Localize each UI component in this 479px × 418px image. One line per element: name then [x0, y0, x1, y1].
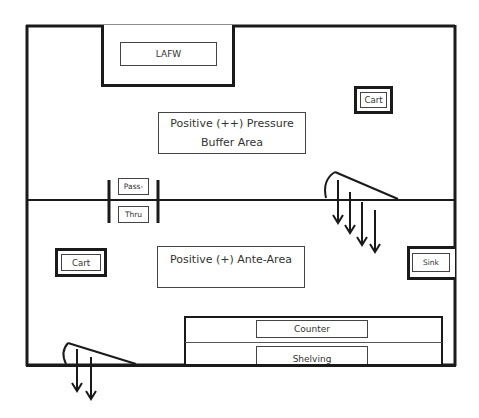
- cart-ante-label: Cart: [61, 254, 101, 271]
- counter-shelving-divider: [185, 342, 442, 343]
- ante-area-label-text: Positive (+) Ante-Area: [170, 253, 292, 266]
- pass-thru-top: Pass-: [118, 178, 149, 195]
- counter-label: Counter: [256, 320, 368, 338]
- buffer-area-label: Positive (++) Pressure Buffer Area: [158, 112, 306, 154]
- buffer-area-label-line1: Positive (++) Pressure: [170, 114, 293, 133]
- shelving-label: Shelving: [256, 346, 368, 364]
- pass-thru-bottom: Thru: [118, 206, 149, 223]
- lafw-label: LAFW: [120, 42, 217, 66]
- buffer-area-label-line2: Buffer Area: [201, 133, 263, 152]
- cart-buffer-label: Cart: [360, 92, 387, 108]
- ante-area-label: Positive (+) Ante-Area: [157, 246, 305, 288]
- bottom-wall: [26, 364, 456, 367]
- sink-label: Sink: [412, 253, 450, 272]
